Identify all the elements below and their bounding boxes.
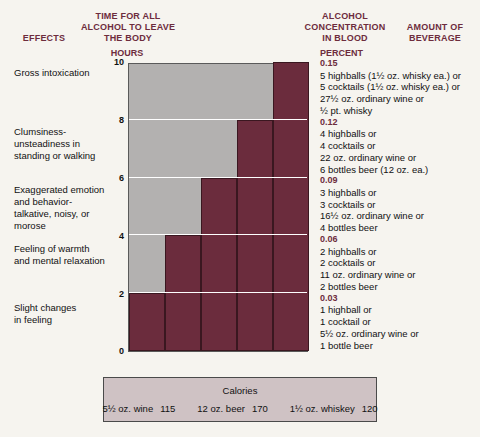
- y-tick-2: 2: [102, 289, 124, 299]
- beverage-item: 4 bottles beer: [320, 222, 480, 234]
- beverage-item: 2 cocktails or: [320, 257, 480, 269]
- concentration-block-0.15: 0.15 5 highballs (1½ oz. whisky ea.) or …: [320, 58, 480, 117]
- bar-0.06: [165, 235, 201, 351]
- percent-value-0.06: 0.06: [320, 234, 480, 246]
- calories-value-beer: 170: [252, 403, 268, 414]
- calories-cell-beer: 12 oz. beer170: [197, 403, 267, 414]
- beverage-item: 22 oz. ordinary wine or: [320, 152, 480, 164]
- infographic-page: EFFECTS TIME FOR ALL ALCOHOL TO LEAVE TH…: [0, 0, 480, 437]
- gridline-4: [129, 234, 307, 235]
- beverage-item: 5 highballs (1½ oz. whisky ea.) or: [320, 70, 480, 82]
- bar-0.15: [273, 62, 309, 351]
- beverage-item: 1 cocktail or: [320, 316, 480, 328]
- beverage-item: 2 bottles beer: [320, 281, 480, 293]
- calories-cell-wine: 5½ oz. wine115: [102, 403, 175, 414]
- beverage-item: 3 highballs or: [320, 187, 480, 199]
- y-tick-10: 10: [102, 57, 124, 67]
- concentration-block-0.12: 0.12 4 highballs or 4 cocktails or 22 oz…: [320, 117, 480, 176]
- beverage-item: 3 cocktails or: [320, 199, 480, 211]
- y-tick-4: 4: [102, 231, 124, 241]
- beverage-item: 11 oz. ordinary wine or: [320, 269, 480, 281]
- beverage-item: 2 highballs or: [320, 246, 480, 258]
- concentration-block-0.06: 0.06 2 highballs or 2 cocktails or 11 oz…: [320, 234, 480, 293]
- bar-0.03: [129, 293, 165, 351]
- y-tick-8: 8: [102, 115, 124, 125]
- beverage-item: 4 highballs or: [320, 128, 480, 140]
- beverage-item: 4 cocktails or: [320, 140, 480, 152]
- percent-value-0.12: 0.12: [320, 117, 480, 129]
- beverage-item: 27½ oz. ordinary wine or: [320, 93, 480, 105]
- calories-label-beer: 12 oz. beer: [197, 403, 245, 414]
- gridline-8: [129, 119, 307, 120]
- calories-cell-whiskey: 1½ oz. whiskey120: [290, 403, 378, 414]
- beverage-item: 16½ oz. ordinary wine or: [320, 210, 480, 222]
- y-tick-6: 6: [102, 173, 124, 183]
- beverage-item: ½ pt. whisky: [320, 105, 480, 117]
- calories-row: 5½ oz. wine115 12 oz. beer170 1½ oz. whi…: [104, 403, 376, 414]
- bar-0.12: [237, 120, 273, 351]
- beverage-item: 5 cocktails (1½ oz. whisky ea.) or: [320, 81, 480, 93]
- header-effects: EFFECTS: [14, 33, 74, 44]
- calories-box: Calories 5½ oz. wine115 12 oz. beer170 1…: [103, 377, 377, 422]
- header-amount-of-beverage: AMOUNT OF BEVERAGE: [396, 22, 474, 44]
- concentration-block-0.09: 0.09 3 highballs or 3 cocktails or 16½ o…: [320, 175, 480, 234]
- beverage-item: 1 bottle beer: [320, 340, 480, 352]
- percent-value-0.03: 0.03: [320, 293, 480, 305]
- calories-value-whiskey: 120: [362, 403, 378, 414]
- percent-value-0.09: 0.09: [320, 175, 480, 187]
- beverage-item: 6 bottles beer (12 oz. ea.): [320, 164, 480, 176]
- gridline-2: [129, 292, 307, 293]
- calories-title: Calories: [104, 385, 376, 397]
- header-alcohol-concentration-in-blood: ALCOHOL CONCENTRATION IN BLOOD: [292, 11, 398, 44]
- calories-label-wine: 5½ oz. wine: [102, 403, 153, 414]
- calories-label-whiskey: 1½ oz. whiskey: [290, 403, 355, 414]
- y-tick-0: 0: [102, 346, 124, 356]
- bar-chart-plot-area: [128, 63, 308, 352]
- y-axis: 10 8 6 4 2 0: [100, 63, 124, 352]
- gridline-6: [129, 177, 307, 178]
- beverage-item: 1 highball or: [320, 304, 480, 316]
- calories-value-wine: 115: [160, 403, 175, 414]
- concentration-block-0.03: 0.03 1 highball or 1 cocktail or 5½ oz. …: [320, 293, 480, 352]
- percent-value-0.15: 0.15: [320, 58, 480, 70]
- bar-0.09: [201, 178, 237, 351]
- beverage-item: 5½ oz. ordinary wine or: [320, 328, 480, 340]
- header-time-for-alcohol-to-leave-body: TIME FOR ALL ALCOHOL TO LEAVE THE BODY: [70, 11, 186, 44]
- concentration-column: 0.15 5 highballs (1½ oz. whisky ea.) or …: [320, 58, 480, 351]
